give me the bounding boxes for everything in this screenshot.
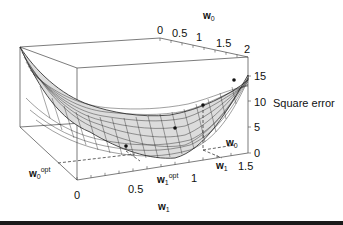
w0-opt-label: w0opt: [29, 164, 50, 182]
w0-tick-1: 1: [196, 32, 202, 43]
w0-tick-1.5: 1.5: [216, 38, 231, 49]
z-axis-title: Square error: [273, 98, 335, 109]
w0-opt-superscript: opt: [41, 166, 51, 173]
point-3: [201, 103, 205, 107]
z-tick-0: 0: [254, 148, 260, 159]
w0-tick-0: 0: [157, 25, 163, 36]
w1-opt-symbol: w: [157, 174, 165, 185]
w0-symbol: w: [203, 10, 211, 21]
w1-tick-1.5: 1.5: [238, 161, 253, 172]
z-tick-10: 10: [254, 97, 266, 108]
w0-tick-2: 2: [244, 44, 250, 55]
w0-tick-0.5: 0.5: [172, 28, 187, 39]
w1-tick-0: 0: [74, 190, 80, 201]
error-surface: [20, 47, 248, 158]
w1-symbol: w: [158, 201, 166, 212]
point-4: [232, 78, 236, 82]
w0-subscript: 0: [211, 15, 215, 22]
w0-opt-symbol: w: [29, 168, 37, 179]
bottom-divider-bar: [0, 221, 343, 225]
w0-opt-subscript: 0: [37, 173, 41, 180]
w0-axis-title: w0: [203, 10, 215, 24]
point-2: [173, 126, 177, 130]
corner-w0-label: w0: [226, 137, 238, 151]
z-tick-5: 5: [254, 122, 260, 133]
w1-tick-1: 1: [191, 173, 197, 184]
w1-opt-label: w1opt: [157, 170, 178, 188]
corner-w1-subscript: 1: [224, 165, 228, 172]
w1-subscript: 1: [166, 206, 170, 213]
w1-axis-title: w1: [158, 201, 170, 215]
corner-w0-subscript: 0: [234, 142, 238, 149]
z-axis-ticks: [248, 76, 251, 153]
w1-opt-subscript: 1: [165, 179, 169, 186]
corner-w1-symbol: w: [216, 160, 224, 171]
corner-w1-label: w1: [216, 160, 228, 174]
point-1: [124, 144, 128, 148]
w1-opt-superscript: opt: [169, 172, 179, 179]
corner-w0-symbol: w: [226, 137, 234, 148]
w1-tick-0.5: 0.5: [128, 184, 143, 195]
z-tick-15: 15: [254, 71, 266, 82]
